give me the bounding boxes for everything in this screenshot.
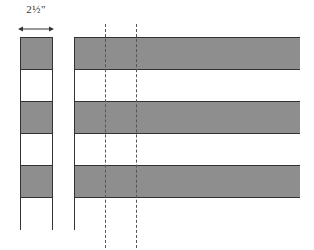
square-gray	[21, 38, 52, 70]
cut-line-1	[105, 24, 106, 248]
cut-line-2	[136, 24, 137, 248]
square-white	[21, 198, 52, 230]
square-column	[20, 37, 53, 230]
square-white	[21, 134, 52, 166]
square-white	[21, 70, 52, 102]
square-gray	[21, 166, 52, 198]
dimension-arrow-icon	[18, 25, 54, 33]
dimension-label: 2½"	[20, 3, 52, 15]
strip-gray	[75, 102, 300, 134]
strip-gray	[75, 166, 300, 198]
strip-white	[75, 70, 300, 102]
strip-white	[75, 198, 300, 230]
square-gray	[21, 102, 52, 134]
strip-white	[75, 134, 300, 166]
strip-gray	[75, 38, 300, 70]
strip-panel	[74, 37, 300, 230]
